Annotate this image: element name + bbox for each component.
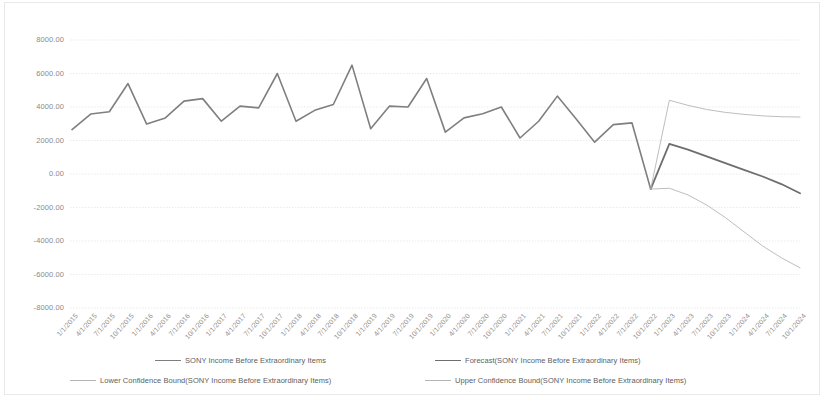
y-axis-tick-label: 6000.00 xyxy=(0,69,64,78)
y-axis-tick-label: -2000.00 xyxy=(0,203,64,212)
legend-item[interactable]: Forecast(SONY Income Before Extraordinar… xyxy=(435,356,641,365)
series-group xyxy=(72,65,800,268)
y-axis-tick-label: -4000.00 xyxy=(0,236,64,245)
y-axis-tick-label: 2000.00 xyxy=(0,136,64,145)
legend-line-swatch xyxy=(425,380,451,381)
legend-item[interactable]: SONY Income Before Extraordinary Items xyxy=(155,356,326,365)
legend-label: Upper Confidence Bound(SONY Income Befor… xyxy=(455,376,686,385)
legend-line-swatch xyxy=(70,380,96,381)
chart-container: 8000.006000.004000.002000.000.00-2000.00… xyxy=(0,0,828,415)
legend-line-swatch xyxy=(155,360,181,361)
chart-legend: SONY Income Before Extraordinary ItemsFo… xyxy=(0,352,828,394)
y-axis-tick-label: 0.00 xyxy=(0,169,64,178)
y-axis-tick-label: -6000.00 xyxy=(0,270,64,279)
legend-label: SONY Income Before Extraordinary Items xyxy=(185,356,326,365)
y-axis-tick-label: 8000.00 xyxy=(0,35,64,44)
legend-line-swatch xyxy=(435,360,461,361)
y-axis-tick-label: -8000.00 xyxy=(0,303,64,312)
legend-label: Forecast(SONY Income Before Extraordinar… xyxy=(465,356,641,365)
gridlines-group xyxy=(70,40,800,308)
legend-label: Lower Confidence Bound(SONY Income Befor… xyxy=(100,376,331,385)
series-line-2 xyxy=(651,188,800,268)
series-line-0 xyxy=(72,65,651,189)
legend-item[interactable]: Lower Confidence Bound(SONY Income Befor… xyxy=(70,376,331,385)
legend-item[interactable]: Upper Confidence Bound(SONY Income Befor… xyxy=(425,376,686,385)
series-line-1 xyxy=(651,144,800,193)
y-axis-tick-label: 4000.00 xyxy=(0,102,64,111)
